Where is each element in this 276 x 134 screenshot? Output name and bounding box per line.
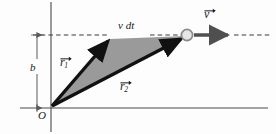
r2-letter: r xyxy=(120,79,125,93)
r1-letter: r xyxy=(60,55,65,69)
label-vector-r2: r 2 xyxy=(120,80,128,93)
particle-marker xyxy=(181,29,192,40)
label-v-dt: v dt xyxy=(118,20,134,31)
vector-diagram-figure: v dt b O r 1 r 2 v xyxy=(0,0,276,134)
label-origin: O xyxy=(38,110,46,121)
label-vector-v: v xyxy=(204,8,209,20)
v-letter: v xyxy=(204,7,209,21)
v-glyph: v xyxy=(204,8,209,20)
r1-glyph: r xyxy=(60,56,65,68)
r2-glyph: r xyxy=(120,80,125,92)
label-b: b xyxy=(30,62,36,73)
label-vector-r1: r 1 xyxy=(60,56,68,69)
